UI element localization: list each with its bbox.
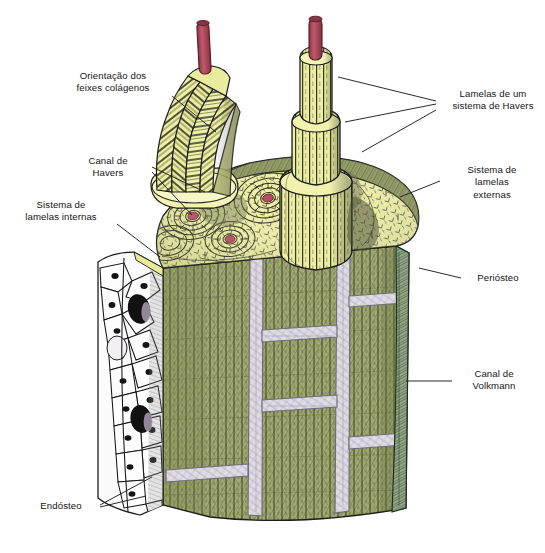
label-sistema-lamelas-externas: Sistema de lamelas externas <box>446 164 538 201</box>
label-endosteo: Endósteo <box>28 500 94 512</box>
cut-off-caption <box>0 545 545 553</box>
label-canal-de-volkmann: Canal de Volkmann <box>458 368 530 393</box>
label-orientacao-feixes-colagenos: Orientação dos feixes colágenos <box>57 70 169 95</box>
blood-vessel-right <box>309 16 322 60</box>
endosteum-face <box>98 252 163 515</box>
label-sistema-lamelas-internas: Sistema de lamelas internas <box>8 199 114 224</box>
blood-vessel-left <box>197 20 212 74</box>
front-face-outer-lamellae <box>150 240 430 540</box>
label-lamelas-sistema-havers: Lamelas de um sistema de Havers <box>443 88 543 113</box>
empty-lacuna <box>107 336 127 360</box>
label-canal-de-havers: Canal de Havers <box>68 155 148 180</box>
label-periosteo: Periósteo <box>465 272 531 284</box>
